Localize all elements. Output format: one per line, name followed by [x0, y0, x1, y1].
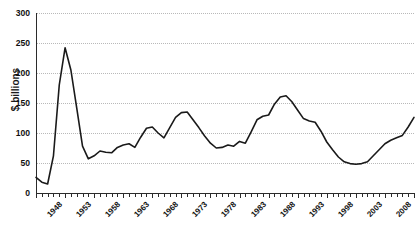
- series-line: [0, 0, 417, 234]
- line-chart: $ billions 050100150200250300 1948195319…: [0, 0, 417, 234]
